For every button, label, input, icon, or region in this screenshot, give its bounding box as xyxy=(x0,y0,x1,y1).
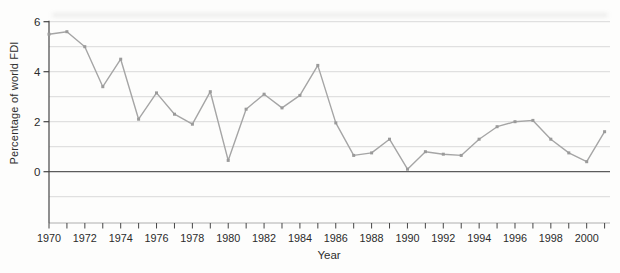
x-tick-label: 1980 xyxy=(216,232,240,244)
data-point-marker xyxy=(101,85,104,88)
y-tick-label: 6 xyxy=(34,16,40,28)
data-point-marker xyxy=(316,64,319,67)
data-point-marker xyxy=(585,160,588,163)
y-tick-label: 0 xyxy=(34,166,40,178)
data-point-marker xyxy=(263,93,266,96)
data-point-marker xyxy=(119,58,122,61)
x-tick-label: 1982 xyxy=(252,232,276,244)
data-point-marker xyxy=(137,118,140,121)
data-point-marker xyxy=(603,130,606,133)
data-point-marker xyxy=(281,106,284,109)
x-tick-label: 1974 xyxy=(109,232,133,244)
x-tick-label: 1992 xyxy=(431,232,455,244)
y-tick-label: 2 xyxy=(34,116,40,128)
data-point-marker xyxy=(245,108,248,111)
data-point-marker xyxy=(65,30,68,33)
fdi-data-line xyxy=(49,32,605,170)
data-point-marker xyxy=(478,138,481,141)
x-tick-label: 2000 xyxy=(575,232,599,244)
data-point-marker xyxy=(496,125,499,128)
data-point-marker xyxy=(155,91,158,94)
x-tick-label: 1996 xyxy=(503,232,527,244)
data-point-marker xyxy=(227,159,230,162)
data-point-marker xyxy=(48,33,51,36)
data-point-marker xyxy=(334,121,337,124)
data-point-marker xyxy=(191,123,194,126)
data-point-marker xyxy=(549,138,552,141)
data-point-marker xyxy=(442,153,445,156)
data-point-marker xyxy=(388,138,391,141)
data-point-marker xyxy=(83,45,86,48)
x-tick-label: 1978 xyxy=(180,232,204,244)
data-point-marker xyxy=(352,154,355,157)
data-point-marker xyxy=(460,154,463,157)
x-tick-label: 1998 xyxy=(539,232,563,244)
x-tick-label: 1976 xyxy=(145,232,169,244)
data-point-marker xyxy=(298,94,301,97)
data-point-marker xyxy=(173,113,176,116)
x-tick-label: 1994 xyxy=(467,232,491,244)
data-point-marker xyxy=(370,151,373,154)
data-point-marker xyxy=(514,120,517,123)
x-tick-label: 1988 xyxy=(360,232,384,244)
x-tick-label: 1972 xyxy=(73,232,97,244)
plot-area: 6420197019721974197619781980198219841986… xyxy=(0,0,620,273)
data-point-marker xyxy=(424,150,427,153)
x-tick-label: 1986 xyxy=(324,232,348,244)
data-point-marker xyxy=(209,90,212,93)
data-point-marker xyxy=(406,168,409,171)
fdi-share-line-chart: Percentage of world FDI 6420197019721974… xyxy=(0,0,620,273)
x-tick-label: 1984 xyxy=(288,232,312,244)
x-axis-title: Year xyxy=(317,249,340,261)
data-point-marker xyxy=(531,119,534,122)
x-tick-label: 1990 xyxy=(395,232,419,244)
data-point-marker xyxy=(567,151,570,154)
x-tick-label: 1970 xyxy=(37,232,61,244)
y-tick-label: 4 xyxy=(34,66,41,78)
